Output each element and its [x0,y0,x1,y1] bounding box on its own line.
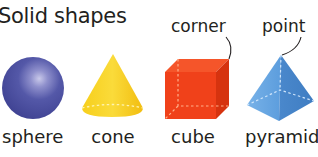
sphere-icon [2,57,64,119]
cone-label: cone [85,126,141,147]
cube-label: cube [168,126,218,147]
corner-leader-line [226,37,231,59]
pyramid-icon [247,55,314,121]
point-leader-line [282,37,301,55]
cone-icon [82,54,143,117]
pyramid-label: pyramid [245,126,318,147]
cube-icon [165,59,229,119]
sphere-label: sphere [2,126,62,147]
